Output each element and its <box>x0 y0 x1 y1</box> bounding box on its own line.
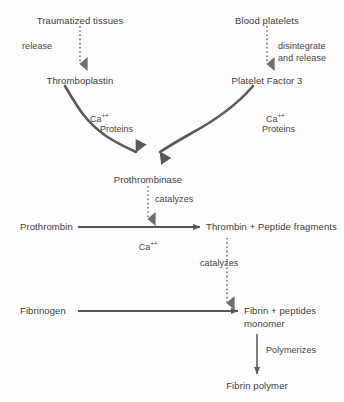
node-prothrombin: Prothrombin <box>20 221 73 233</box>
calcium-symbol-thrombin: Ca <box>139 242 151 252</box>
calcium-charge-left: ++ <box>102 112 109 119</box>
node-fibrin-polymer: Fibrin polymer <box>226 380 288 392</box>
edge-label-catalyzes-fibrinogen: catalyzes <box>200 258 238 270</box>
coagulation-cascade-diagram: Traumatized tissues Blood platelets Thro… <box>0 0 344 402</box>
node-traumatized-tissues: Traumatized tissues <box>37 15 124 27</box>
edge-label-and-release: and release <box>278 53 326 65</box>
edge-label-release: release <box>22 41 52 53</box>
node-fibrin-peptides: Fibrin + peptides <box>244 305 316 318</box>
cofactor-proteins-right: Proteins <box>262 124 295 136</box>
calcium-charge-thrombin: ++ <box>150 240 157 247</box>
node-fibrinogen: Fibrinogen <box>20 305 66 317</box>
node-thromboplastin: Thromboplastin <box>47 75 114 87</box>
node-prothrombinase: Prothrombinase <box>114 174 182 186</box>
node-platelet-factor-3: Platelet Factor 3 <box>232 75 303 87</box>
calcium-symbol-left: Ca <box>90 114 102 124</box>
node-blood-platelets: Blood platelets <box>235 15 299 27</box>
node-thrombin-peptide-fragments: Thrombin + Peptide fragments <box>206 221 337 233</box>
edge-label-catalyzes-prothrombin: catalyzes <box>155 194 193 206</box>
edge-label-disintegrate: disintegrate <box>278 41 326 53</box>
cofactor-proteins-left: Proteins <box>100 124 133 136</box>
node-fibrin-monomer: monomer <box>244 318 285 331</box>
cofactor-calcium-thrombin-step: Ca++ <box>139 238 158 254</box>
curve-factor3-to-prothrombinase <box>160 86 253 152</box>
edge-label-polymerizes: Polymerizes <box>266 345 316 357</box>
calcium-charge-right: ++ <box>278 112 285 119</box>
calcium-symbol-right: Ca <box>266 114 278 124</box>
